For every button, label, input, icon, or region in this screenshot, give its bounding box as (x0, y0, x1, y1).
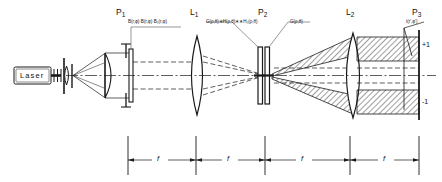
focal-length-label-0: f (157, 155, 159, 163)
plane-p2-function-label-left: G(ρ,θ)∗H(ρ,θ)∗∗H₀(ρ,θ) (206, 20, 258, 25)
dim-arrow-e (265, 158, 271, 162)
laser-label: Laser (20, 72, 44, 80)
optical-system-drawing (0, 0, 442, 182)
microscope-objective-group (64, 58, 72, 94)
output-beam-minus1 (357, 90, 419, 114)
lens-l1-subscript: 1 (195, 11, 199, 18)
diffraction-order-minus1-label: -1 (422, 98, 428, 105)
p2-leader-right (269, 22, 288, 47)
diffraction-order-plus1-label: +1 (422, 41, 430, 48)
p1-leader-line (131, 27, 181, 49)
focal-length-label-1: f (227, 155, 229, 163)
plane-p2-group (206, 22, 310, 104)
plane-p2-label: P2 (258, 8, 268, 17)
plane-p3-function-label: t(r',φ') (406, 20, 417, 25)
dim-arrow-f (344, 158, 350, 162)
plane-p3-subscript: 3 (418, 11, 422, 18)
focal-length-label-2: f (301, 155, 303, 163)
diffracted-order-plus1-expanding (272, 37, 353, 76)
plane-p2-letter: P (258, 7, 264, 17)
p2-leader-left (232, 22, 258, 47)
lens-l2-subscript: 2 (351, 11, 355, 18)
dim-arrow-h (413, 158, 419, 162)
ray-l1-p2-upper-outer (203, 56, 265, 76)
ray-l1-p2-lower-outer (203, 76, 265, 96)
dim-arrow-g (350, 158, 356, 162)
dimension-scale-group (128, 136, 419, 175)
optical-diagram-figure: Laser P1 B(r,φ)·B(r,φ)·B₀(r,φ) L1 P2 G(ρ… (0, 0, 442, 182)
plane-p2-subscript: 2 (264, 11, 268, 18)
plane-p3-letter: P (412, 7, 418, 17)
plane-p1-group (121, 27, 181, 107)
plane-p1-subscript: 1 (122, 11, 126, 18)
ray-l1-p2-upper (203, 62, 265, 76)
plane-p1-letter: P (116, 7, 122, 17)
dim-arrow-d (259, 158, 265, 162)
diffracted-order-minus1-expanding (272, 77, 353, 114)
plane-p2-function-label-right: G(ρ,θ) (290, 20, 303, 25)
dim-arrow-b (190, 158, 196, 162)
dim-arrow-c (196, 158, 202, 162)
lens-l2-label: L2 (346, 8, 355, 17)
ray-l1-p2-lower (203, 76, 265, 90)
plane-p1-label: P1 (116, 8, 126, 17)
dim-arrow-a (128, 158, 134, 162)
lens-l1-label: L1 (190, 8, 199, 17)
focal-length-label-3: f (383, 155, 385, 163)
plane-p1-function-label: B(r,φ)·B(r,φ)·B₀(r,φ) (128, 20, 167, 25)
plane-p3-label: P3 (412, 8, 422, 17)
